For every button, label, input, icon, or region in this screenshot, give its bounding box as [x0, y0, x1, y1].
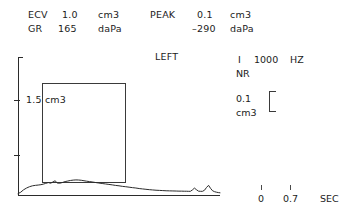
- ecv-unit: cm3: [98, 10, 119, 20]
- peak-label: PEAK: [150, 10, 175, 20]
- reflex-frequency: 1000: [254, 54, 278, 65]
- reflex-result-badge: NR: [236, 68, 250, 79]
- reflex-scale-unit: cm3: [236, 107, 257, 118]
- reflex-scale-bracket: [269, 91, 276, 112]
- ecv-label: ECV: [28, 10, 48, 20]
- time-axis-tick-0-7: [290, 185, 291, 190]
- time-axis-tick-0: [261, 185, 262, 190]
- acoustic-reflex-panel: I 1000 HZ NR 0.1 cm3 0 0.7 SEC: [228, 46, 355, 216]
- gradient-value: 165: [58, 24, 77, 34]
- reflex-ear-label: I: [238, 54, 241, 65]
- peak-unit: cm3: [230, 10, 251, 20]
- peak-value: 0.1: [197, 10, 213, 20]
- gradient-label: GR: [28, 24, 42, 34]
- reflex-frequency-unit: HZ: [290, 54, 304, 65]
- peak-pressure: –290: [192, 24, 216, 34]
- reflex-scale-value: 0.1: [236, 93, 251, 104]
- tympanogram-panel: 1.5 cm3 LEFT –400 daPa 0 +200: [0, 46, 228, 206]
- time-axis-label-0: 0: [258, 193, 264, 204]
- gradient-unit: daPa: [98, 24, 122, 34]
- ecv-value: 1.0: [62, 10, 78, 20]
- time-axis-unit: SEC: [320, 193, 339, 204]
- peak-pressure-unit: daPa: [230, 24, 254, 34]
- tympanometry-screen: ECV 1.0 cm3 GR 165 daPa PEAK 0.1 cm3 –29…: [0, 0, 355, 220]
- time-axis-label-0-7: 0.7: [283, 193, 298, 204]
- tympanogram-curve: [0, 46, 228, 206]
